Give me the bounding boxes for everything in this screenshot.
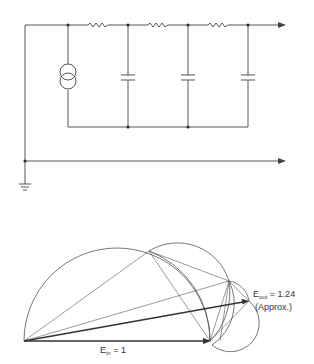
current-source-icon	[60, 64, 76, 89]
arrow-icon	[278, 22, 286, 28]
ein-label: Ein = 1	[100, 345, 126, 358]
resistor-icon	[148, 23, 168, 27]
ground-icon	[19, 184, 31, 190]
approx-label: (Approx.)	[255, 302, 292, 312]
capacitor-icon	[181, 75, 195, 80]
resistor-icon	[208, 23, 228, 27]
arrow-icon	[278, 158, 286, 164]
eout-label: Eout = 1.24	[253, 289, 295, 302]
capacitor-icon	[241, 75, 255, 80]
resistor-icon	[88, 23, 108, 27]
capacitor-icon	[121, 75, 135, 80]
